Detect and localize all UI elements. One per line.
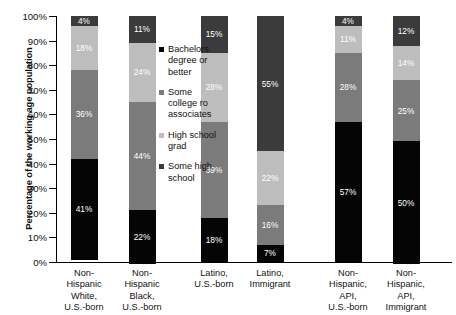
- legend-item-label: High school grad: [168, 130, 216, 153]
- bar-segment-value-label: 11%: [340, 35, 356, 43]
- bar-segment-value-label: 57%: [340, 188, 357, 196]
- bar-segment-value-label: 41%: [76, 205, 93, 213]
- bar-segment-value-label: 36%: [76, 110, 93, 118]
- legend-color-swatch-icon: [159, 164, 164, 169]
- stacked-bar-chart: Percentage of the working age population…: [0, 0, 456, 315]
- bar-segment[interactable]: 22%: [129, 210, 156, 264]
- y-axis-tick: [49, 188, 56, 189]
- y-axis-tick-label: 50%: [7, 134, 47, 145]
- bar-segment-value-label: 24%: [134, 68, 151, 76]
- bar-segment-value-label: 44%: [134, 152, 151, 160]
- bar-segment[interactable]: 36%: [71, 70, 98, 159]
- bar-segment[interactable]: 11%: [335, 26, 362, 53]
- y-axis-tick: [49, 164, 56, 165]
- bar-segment-value-label: 22%: [262, 174, 279, 182]
- bar-segment[interactable]: 7%: [257, 245, 284, 262]
- y-axis-tick-label: 80%: [7, 60, 47, 71]
- bar-segment[interactable]: 57%: [335, 122, 362, 262]
- y-axis-tick-label: 20%: [7, 207, 47, 218]
- legend-item-label: Some college ro associates: [168, 87, 211, 121]
- bar-segment-value-label: 22%: [134, 233, 151, 241]
- y-axis-tick-label: 0%: [7, 257, 47, 268]
- bar-segment[interactable]: 12%: [393, 16, 420, 46]
- y-axis-tick: [49, 16, 56, 17]
- y-axis-tick: [49, 90, 56, 91]
- bar-segment-value-label: 14%: [398, 59, 415, 67]
- bar-segment-value-label: 15%: [206, 30, 223, 38]
- stacked-bar[interactable]: 11%24%44%22%: [129, 16, 156, 262]
- stacked-bar[interactable]: 4%11%28%57%: [335, 16, 362, 262]
- bar-segment-value-label: 16%: [262, 221, 279, 229]
- bar-segment[interactable]: 22%: [257, 151, 284, 205]
- legend-color-swatch-icon: [159, 47, 164, 52]
- bar-segment[interactable]: 11%: [129, 16, 156, 43]
- y-axis-tick-label: 10%: [7, 232, 47, 243]
- y-axis-tick-label: 40%: [7, 158, 47, 169]
- y-axis-tick-label: 30%: [7, 183, 47, 194]
- bar-segment[interactable]: 50%: [393, 141, 420, 264]
- bar-segment-value-label: 4%: [78, 17, 90, 25]
- bar-segment-value-label: 11%: [134, 25, 150, 33]
- bar-segment[interactable]: 18%: [71, 26, 98, 70]
- bar-segment-value-label: 18%: [206, 236, 223, 244]
- chart-legend: Bachelors degree or betterSome college r…: [159, 44, 231, 193]
- stacked-bar[interactable]: 4%18%36%41%: [71, 16, 98, 262]
- legend-item[interactable]: Some college ro associates: [159, 87, 231, 121]
- bar-segment-value-label: 7%: [264, 249, 276, 257]
- y-axis-tick: [49, 41, 56, 42]
- y-axis-tick-label: 60%: [7, 109, 47, 120]
- bar-segment[interactable]: 55%: [257, 16, 284, 151]
- y-axis-tick: [49, 237, 56, 238]
- bar-segment[interactable]: 4%: [71, 16, 98, 26]
- stacked-bar[interactable]: 12%14%25%50%: [393, 16, 420, 262]
- bar-segment[interactable]: 18%: [201, 218, 228, 262]
- y-axis-tick: [49, 262, 56, 263]
- y-axis-tick-label: 100%: [7, 11, 47, 22]
- legend-item-label: Bachelors degree or better: [168, 44, 209, 78]
- bar-segment-value-label: 55%: [262, 80, 279, 88]
- bar-segment[interactable]: 4%: [335, 16, 362, 26]
- y-axis-tick-label: 90%: [7, 35, 47, 46]
- x-axis-category-label: Latino, Immigrant: [233, 268, 307, 291]
- bar-segment-value-label: 50%: [398, 199, 415, 207]
- y-axis-tick: [49, 65, 56, 66]
- bar-segment[interactable]: 24%: [129, 43, 156, 102]
- bar-segment[interactable]: 28%: [335, 53, 362, 122]
- plot-area: 100%90%80%70%60%50%40%30%20%10%0% 4%18%3…: [56, 16, 452, 262]
- bar-segment-value-label: 25%: [398, 107, 415, 115]
- legend-color-swatch-icon: [159, 90, 164, 95]
- y-axis-tick: [49, 114, 56, 115]
- stacked-bar[interactable]: 55%22%16%7%: [257, 16, 284, 262]
- x-axis-category-label: Non- Hispanic Black, U.S.-born: [105, 268, 179, 314]
- bar-segment-value-label: 4%: [342, 17, 354, 25]
- legend-item[interactable]: Bachelors degree or better: [159, 44, 231, 78]
- bar-segment[interactable]: 16%: [257, 205, 284, 244]
- legend-item[interactable]: Some high school: [159, 161, 231, 184]
- y-axis-tick: [49, 139, 56, 140]
- y-axis-line: [56, 16, 57, 262]
- bar-segment[interactable]: 44%: [129, 102, 156, 210]
- y-axis-tick: [49, 213, 56, 214]
- bar-segment-value-label: 12%: [398, 27, 415, 35]
- bar-segment[interactable]: 25%: [393, 80, 420, 142]
- legend-item-label: Some high school: [168, 161, 212, 184]
- y-axis-tick-label: 70%: [7, 84, 47, 95]
- bar-segment[interactable]: 14%: [393, 46, 420, 80]
- legend-item[interactable]: High school grad: [159, 130, 231, 153]
- bar-segment-value-label: 18%: [76, 44, 93, 52]
- bar-segment[interactable]: 41%: [71, 159, 98, 260]
- legend-color-swatch-icon: [159, 133, 164, 138]
- bar-segment-value-label: 28%: [340, 83, 357, 91]
- x-axis-category-label: Non- Hispanic, API, Immigrant: [369, 268, 443, 314]
